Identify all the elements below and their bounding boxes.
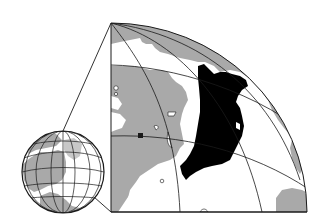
map-figure [0,0,324,219]
globe-inset [22,131,104,214]
connector-line-top [63,23,111,131]
connector-line-bottom [94,197,111,212]
island-small [160,179,164,183]
map-svg [0,0,324,219]
magnified-map-panel [111,20,320,215]
lake-2 [114,92,117,95]
land-southeast [276,188,310,212]
dark-marker [138,133,143,138]
lake-1 [114,86,118,90]
